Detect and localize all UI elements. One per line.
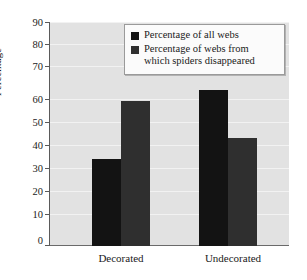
y-tick-label-60: 60 [17, 94, 43, 105]
y-tick-mark-20 [45, 191, 50, 192]
legend: Percentage of all webs Percentage of web… [124, 24, 285, 75]
legend-swatch-icon-spiders-disappeared [131, 46, 139, 54]
y-tick-label-50: 50 [17, 117, 43, 128]
x-category-label-decorated: Decorated [76, 252, 166, 264]
legend-item-all-webs: Percentage of all webs [131, 29, 279, 42]
gridline-60 [50, 99, 289, 100]
bar-undecorated-all-webs [199, 90, 228, 246]
bar-decorated-all-webs [92, 159, 121, 246]
y-tick-mark-30 [45, 168, 50, 169]
y-tick-mark-50 [45, 122, 50, 123]
legend-item-spiders-disappeared: Percentage of webs from which spiders di… [131, 43, 279, 68]
y-tick-label-10: 10 [17, 209, 43, 220]
y-tick-mark-40 [45, 145, 50, 146]
y-tick-label-20: 20 [17, 186, 43, 197]
bar-undecorated-spiders-disappeared [228, 138, 257, 246]
y-tick-mark-90 [45, 22, 50, 23]
legend-swatch-icon-all-webs [131, 32, 139, 40]
y-tick-mark-0 [45, 245, 50, 246]
y-axis-title: Percentage [0, 48, 3, 96]
y-tick-label-30: 30 [17, 163, 43, 174]
y-tick-mark-70 [45, 66, 50, 67]
bar-decorated-spiders-disappeared [121, 101, 150, 246]
legend-label-spiders-disappeared: Percentage of webs from which spiders di… [144, 43, 255, 68]
legend-label-all-webs: Percentage of all webs [144, 29, 239, 42]
y-tick-label-70: 70 [17, 61, 43, 72]
y-tick-label-80: 80 [17, 39, 43, 50]
y-tick-label-40: 40 [17, 140, 43, 151]
gridline-90 [50, 22, 289, 23]
y-tick-mark-60 [45, 99, 50, 100]
y-tick-mark-80 [45, 44, 50, 45]
bar-chart-figure: Percentage 90 80 70 60 50 40 30 20 10 0 [0, 0, 307, 280]
gridline-50 [50, 122, 289, 123]
y-tick-mark-10 [45, 214, 50, 215]
y-tick-label-90: 90 [17, 17, 43, 28]
x-category-label-undecorated: Undecorated [183, 252, 283, 264]
y-tick-label-0: 0 [17, 235, 43, 246]
